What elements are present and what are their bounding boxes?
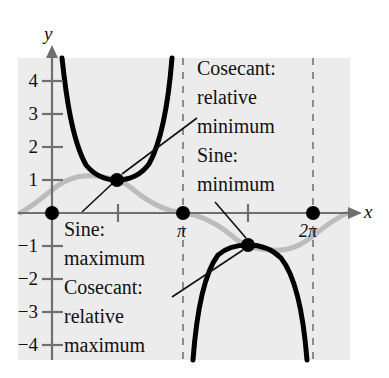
annotation-sine-minimum-line2: minimum — [197, 174, 275, 194]
graph-vector-layer — [0, 0, 389, 378]
y-tick-label-3: 3 — [8, 104, 38, 123]
y-tick-label-4: 4 — [8, 71, 38, 90]
annotation-cosecant-relative-minimum-line3: minimum — [197, 116, 275, 136]
annotation-cosecant-relative-maximum-line1: Cosecant: — [64, 277, 143, 297]
leader-sine-maximum — [82, 183, 113, 212]
annotation-cosecant-relative-minimum-line2: relative — [197, 87, 257, 107]
y-tick-label-1: 1 — [8, 170, 38, 189]
x-tick-label-pi: π — [177, 222, 186, 240]
leader-cosecant-relative-minimum — [122, 118, 197, 174]
annotation-sine-maximum-line1: Sine: — [64, 219, 105, 239]
point-origin — [45, 206, 59, 220]
y-tick-label-2: 2 — [8, 137, 38, 156]
annotation-sine-minimum-line1: Sine: — [197, 145, 238, 165]
annotation-cosecant-relative-maximum-line2: relative — [64, 306, 124, 326]
x-axis-arrow — [348, 207, 362, 219]
cosecant-branch-left — [62, 58, 172, 180]
y-tick-label-minus-4: −4 — [2, 335, 38, 354]
y-tick-label-minus-2: −2 — [2, 269, 38, 288]
y-axis-label: y — [44, 24, 52, 43]
annotation-cosecant-relative-maximum-line3: maximum — [64, 335, 145, 355]
annotation-cosecant-relative-minimum-line1: Cosecant: — [197, 58, 276, 78]
point-three-pi-half-min — [241, 238, 255, 252]
point-pi-half-max — [110, 173, 124, 187]
cosecant-branch-right — [193, 245, 307, 360]
y-tick-label-minus-3: −3 — [2, 302, 38, 321]
x-axis-label: x — [364, 202, 372, 221]
point-pi-zero — [176, 206, 190, 220]
point-two-pi-zero — [306, 206, 320, 220]
annotation-sine-maximum-line2: maximum — [64, 248, 145, 268]
x-tick-label-2pi: 2π — [299, 222, 317, 240]
y-tick-label-minus-1: −1 — [2, 236, 38, 255]
figure-canvas: y x 4 3 2 1 −1 −2 −3 −4 π 2π Cosecant: r… — [0, 0, 389, 378]
y-axis-arrow — [46, 45, 58, 58]
